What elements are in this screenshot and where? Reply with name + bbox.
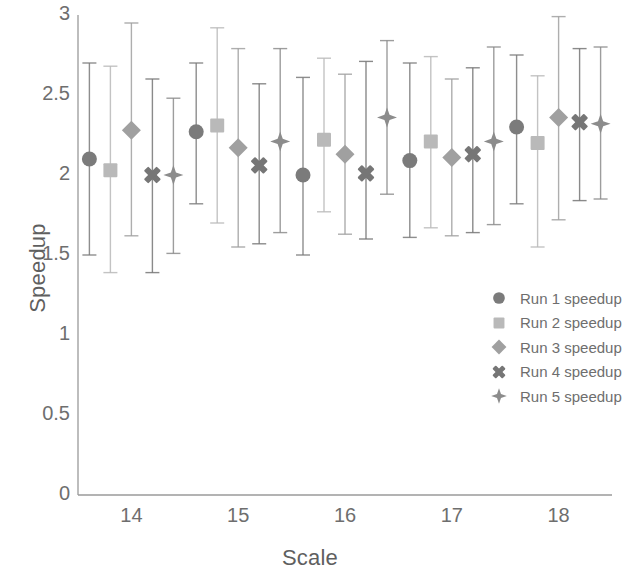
error-bar bbox=[359, 61, 373, 239]
legend-label: Run 1 speedup bbox=[512, 290, 622, 307]
x-tick-label: 15 bbox=[208, 504, 268, 527]
error-bar bbox=[531, 76, 545, 247]
errorbars-layer bbox=[82, 17, 607, 273]
legend-item[interactable]: Run 1 speedup bbox=[486, 286, 620, 311]
error-bar bbox=[296, 77, 310, 255]
y-axis-title: Speedup bbox=[25, 208, 51, 328]
error-bar bbox=[403, 63, 417, 237]
data-point-marker bbox=[442, 148, 461, 167]
markers-layer bbox=[82, 107, 611, 185]
circle-marker-icon bbox=[486, 287, 512, 309]
data-point-marker bbox=[270, 131, 290, 151]
data-point-marker bbox=[509, 120, 524, 135]
legend-item[interactable]: Run 4 speedup bbox=[486, 360, 620, 385]
x-axis-title: Scale bbox=[0, 545, 620, 571]
legend-item[interactable]: Run 3 speedup bbox=[486, 335, 620, 360]
y-tick-label: 2.5 bbox=[14, 82, 70, 105]
legend-item[interactable]: Run 2 speedup bbox=[486, 311, 620, 336]
legend-label: Run 2 speedup bbox=[512, 314, 622, 331]
data-point-marker bbox=[163, 165, 183, 185]
y-tick-label: 3 bbox=[14, 2, 70, 25]
y-tick-label: 0.5 bbox=[14, 402, 70, 425]
data-point-marker bbox=[531, 136, 545, 150]
star-marker-icon bbox=[486, 385, 512, 407]
legend-item[interactable]: Run 5 speedup bbox=[486, 384, 620, 409]
x-tick-label: 17 bbox=[422, 504, 482, 527]
data-point-marker bbox=[210, 118, 224, 132]
y-tick-label: 0 bbox=[14, 482, 70, 505]
data-point-marker bbox=[229, 138, 248, 157]
square-marker-icon bbox=[486, 312, 512, 334]
data-point-marker bbox=[82, 152, 97, 167]
x-tick-label: 16 bbox=[315, 504, 375, 527]
data-point-marker bbox=[402, 153, 417, 168]
data-point-marker bbox=[317, 133, 331, 147]
diamond-marker-icon bbox=[486, 336, 512, 358]
x-tick-label: 14 bbox=[101, 504, 161, 527]
data-point-marker bbox=[377, 107, 397, 127]
data-point-marker bbox=[103, 163, 117, 177]
legend-label: Run 3 speedup bbox=[512, 339, 622, 356]
legend-label: Run 4 speedup bbox=[512, 363, 622, 380]
y-tick-label: 1 bbox=[14, 322, 70, 345]
chart-legend: Run 1 speedupRun 2 speedupRun 3 speedupR… bbox=[486, 286, 620, 409]
data-point-marker bbox=[122, 121, 141, 140]
data-point-marker bbox=[296, 168, 311, 183]
legend-label: Run 5 speedup bbox=[512, 388, 622, 405]
data-point-marker bbox=[549, 108, 568, 127]
x-tick-label: 18 bbox=[529, 504, 589, 527]
y-tick-label: 2 bbox=[14, 162, 70, 185]
cross-marker-icon bbox=[486, 361, 512, 383]
data-point-marker bbox=[424, 134, 438, 148]
data-point-marker bbox=[484, 131, 504, 151]
data-point-marker bbox=[591, 114, 611, 134]
data-point-marker bbox=[336, 145, 355, 164]
data-point-marker bbox=[189, 124, 204, 139]
y-tick-label: 1.5 bbox=[14, 242, 70, 265]
